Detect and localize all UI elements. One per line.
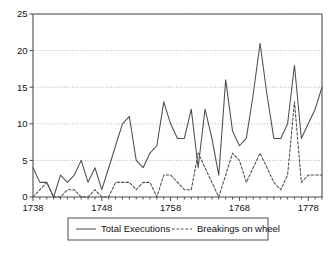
x-tick-label-1778: 1778 [298,202,319,213]
series-line-breakings-on-wheel [33,102,322,197]
chart-container: 051015202517381748175817681778Total Exec… [0,0,336,253]
y-tick-label-15: 15 [17,82,28,93]
y-tick-label-5: 5 [22,155,27,166]
x-tick-label-1758: 1758 [160,202,181,213]
series-line-total-executions [33,43,322,197]
x-tick-label-1768: 1768 [229,202,250,213]
line-chart-svg: 051015202517381748175817681778Total Exec… [0,0,336,253]
y-tick-label-0: 0 [22,191,27,202]
x-tick-label-1738: 1738 [22,202,43,213]
y-tick-label-10: 10 [17,118,28,129]
y-tick-label-20: 20 [17,45,28,56]
y-tick-label-25: 25 [17,8,28,19]
legend-label-0[interactable]: Total Executions [101,223,170,234]
chart-plot-area: 051015202517381748175817681778Total Exec… [0,0,336,253]
x-tick-label-1748: 1748 [91,202,112,213]
legend-label-1[interactable]: Breakings on wheel [197,223,280,234]
